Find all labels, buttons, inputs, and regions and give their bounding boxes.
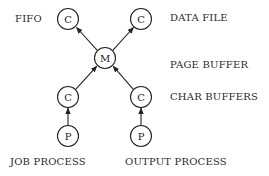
process-diagram: C C M C C P P	[0, 0, 269, 176]
node-output-process: P	[131, 126, 152, 147]
svg-text:C: C	[64, 14, 72, 25]
label-fifo: FIFO	[15, 13, 42, 24]
svg-text:C: C	[64, 92, 72, 103]
label-job-process: JOB PROCESS	[10, 156, 86, 167]
node-datafile-consumer: C	[131, 9, 152, 30]
edge-m-to-fifo	[77, 28, 98, 51]
edge-charbuf-left-to-m	[76, 66, 97, 89]
label-data-file: DATA FILE	[170, 12, 228, 23]
label-output-process: OUTPUT PROCESS	[125, 156, 227, 167]
node-job-process: P	[58, 126, 79, 147]
svg-text:P: P	[65, 131, 72, 142]
edge-m-to-datafile	[113, 28, 134, 51]
label-char-buffers: CHAR BUFFERS	[170, 91, 258, 102]
node-fifo-consumer: C	[58, 9, 79, 30]
svg-text:C: C	[137, 92, 145, 103]
svg-text:C: C	[137, 14, 145, 25]
svg-text:P: P	[138, 131, 145, 142]
edge-charbuf-right-to-m	[113, 66, 133, 89]
svg-text:M: M	[100, 53, 110, 64]
node-page-buffer-monitor: M	[95, 48, 116, 69]
node-char-buffer-right: C	[131, 87, 152, 108]
label-page-buffer: PAGE BUFFER	[170, 59, 248, 70]
node-char-buffer-left: C	[58, 87, 79, 108]
